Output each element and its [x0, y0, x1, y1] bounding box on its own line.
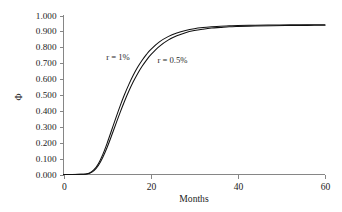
x-axis-title: Months	[179, 193, 209, 204]
x-tick-label-0: 0	[62, 181, 67, 192]
series-line-1	[64, 25, 326, 174]
series-label-0: r = 1%	[106, 52, 130, 62]
x-tick-label-2: 40	[234, 181, 244, 192]
y-tick-label-8: 0.800	[36, 42, 57, 52]
x-axis-tick-marks	[65, 175, 326, 179]
y-tick-label-7: 0.700	[36, 58, 57, 68]
y-tick-label-2: 0.200	[36, 138, 57, 148]
x-axis-tick-labels: 0204060	[62, 181, 330, 192]
line-chart: 0.0000.1000.2000.3000.4000.5000.6000.700…	[0, 0, 342, 212]
chart-figure: 0.0000.1000.2000.3000.4000.5000.6000.700…	[0, 0, 342, 212]
x-tick-label-3: 60	[321, 181, 331, 192]
y-tick-label-1: 0.100	[36, 154, 57, 164]
y-tick-label-3: 0.300	[36, 122, 57, 132]
y-tick-label-9: 0.900	[36, 26, 57, 36]
y-tick-label-6: 0.600	[36, 74, 57, 84]
y-tick-label-10: 1.000	[36, 11, 57, 21]
y-axis-tick-marks	[60, 17, 64, 176]
series-lines	[64, 25, 326, 175]
y-axis-title: Φ	[13, 93, 24, 100]
x-tick-label-1: 20	[147, 181, 157, 192]
y-tick-label-0: 0.000	[36, 170, 57, 180]
series-label-1: r = 0.5%	[157, 55, 187, 65]
y-axis-tick-labels: 0.0000.1000.2000.3000.4000.5000.6000.700…	[36, 11, 57, 180]
series-line-0	[64, 25, 326, 175]
y-tick-label-5: 0.500	[36, 90, 57, 100]
y-tick-label-4: 0.400	[36, 106, 57, 116]
